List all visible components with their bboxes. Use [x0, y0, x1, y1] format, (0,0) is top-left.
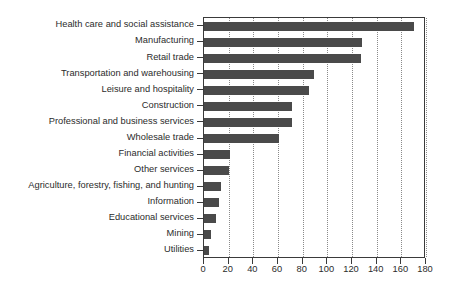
category-label-row: Manufacturing — [135, 33, 197, 49]
bar-slot — [204, 130, 424, 146]
value-tick-label: 140 — [368, 265, 384, 274]
plot-area — [203, 17, 425, 258]
category-label-row: Leisure and hospitality — [101, 81, 197, 97]
category-label: Health care and social assistance — [56, 20, 198, 29]
value-tick-label: 0 — [200, 265, 205, 274]
bar[interactable] — [204, 22, 414, 31]
bar[interactable] — [204, 70, 314, 79]
bar-slot — [204, 114, 424, 130]
category-label-row: Information — [147, 194, 197, 210]
category-label-row: Professional and business services — [49, 113, 197, 129]
category-label-row: Educational services — [109, 210, 197, 226]
bar-chart: Health care and social assistanceManufac… — [0, 0, 452, 290]
category-label-row: Mining — [167, 226, 197, 242]
bar-slot — [204, 82, 424, 98]
bar-slot — [204, 211, 424, 227]
category-label: Educational services — [109, 213, 197, 222]
bar-slot — [204, 227, 424, 243]
bar-slot — [204, 66, 424, 82]
category-label: Professional and business services — [49, 117, 197, 126]
bar[interactable] — [204, 198, 219, 207]
bar-slot — [204, 195, 424, 211]
category-label: Agriculture, forestry, fishing, and hunt… — [28, 181, 197, 190]
bar-slot — [204, 18, 424, 34]
value-tick-label: 20 — [222, 265, 232, 274]
value-axis-labels: 020406080100120140160180 — [203, 265, 425, 281]
value-tick-label: 40 — [247, 265, 257, 274]
category-label-row: Transportation and warehousing — [61, 65, 197, 81]
category-label-row: Retail trade — [146, 49, 197, 65]
category-axis-labels: Health care and social assistanceManufac… — [0, 17, 197, 258]
bar-slot — [204, 163, 424, 179]
value-tick-label: 100 — [319, 265, 335, 274]
bar[interactable] — [204, 38, 362, 47]
category-label: Leisure and hospitality — [101, 85, 197, 94]
bar[interactable] — [204, 86, 309, 95]
category-label-row: Utilities — [164, 242, 197, 258]
bar-slot — [204, 243, 424, 259]
value-tick-label: 60 — [272, 265, 282, 274]
bar[interactable] — [204, 134, 279, 143]
bar[interactable] — [204, 214, 216, 223]
category-label-row: Construction — [142, 97, 197, 113]
bar-slot — [204, 98, 424, 114]
bar[interactable] — [204, 246, 209, 255]
category-label: Information — [147, 197, 197, 206]
bars-layer — [204, 18, 424, 257]
bar[interactable] — [204, 166, 229, 175]
bar[interactable] — [204, 150, 230, 159]
category-label: Transportation and warehousing — [61, 69, 197, 78]
bar[interactable] — [204, 102, 292, 111]
bar-slot — [204, 34, 424, 50]
bar-slot — [204, 147, 424, 163]
category-label: Retail trade — [146, 53, 197, 62]
gridline — [426, 18, 427, 257]
value-tick-label: 180 — [417, 265, 433, 274]
category-label: Financial activities — [119, 149, 197, 158]
value-tick-label: 80 — [296, 265, 306, 274]
bar[interactable] — [204, 118, 292, 127]
value-tick-label: 120 — [343, 265, 359, 274]
category-label: Mining — [167, 229, 197, 238]
bar[interactable] — [204, 54, 361, 63]
category-label: Other services — [134, 165, 197, 174]
category-label-row: Health care and social assistance — [56, 17, 198, 33]
category-label-row: Wholesale trade — [127, 129, 197, 145]
bar-slot — [204, 50, 424, 66]
bar[interactable] — [204, 230, 211, 239]
value-tick-label: 160 — [393, 265, 409, 274]
category-label: Wholesale trade — [127, 133, 197, 142]
category-label: Manufacturing — [135, 36, 197, 45]
category-label-row: Agriculture, forestry, fishing, and hunt… — [28, 178, 197, 194]
category-label-row: Financial activities — [119, 146, 197, 162]
category-label: Utilities — [164, 245, 197, 254]
category-label-row: Other services — [134, 162, 197, 178]
bar[interactable] — [204, 182, 221, 191]
bar-slot — [204, 179, 424, 195]
category-label: Construction — [142, 101, 197, 110]
